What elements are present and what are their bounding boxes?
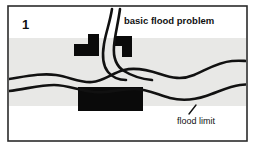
flood-limit-label: flood limit [177,116,216,126]
diagram-canvas: 1 basic flood problem flood limit [0,0,258,149]
panel-number: 1 [22,17,29,32]
panel-title: basic flood problem [124,15,214,26]
flood-problem-diagram: 1 basic flood problem flood limit [0,0,258,149]
